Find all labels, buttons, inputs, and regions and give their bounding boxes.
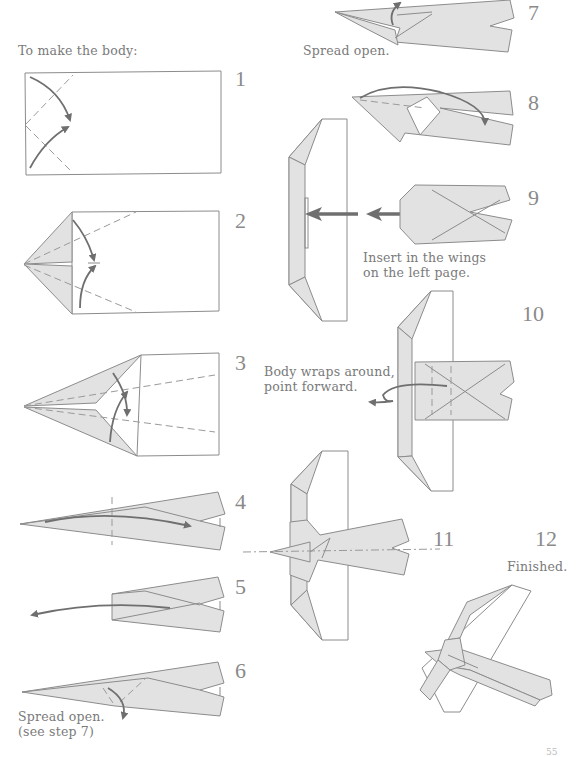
step-number-2: 2 <box>235 210 246 232</box>
step-10-diagram <box>370 291 514 491</box>
page-number: 55 <box>546 747 557 757</box>
step-number-6: 6 <box>235 660 246 682</box>
step-6-caption-line1: Spread open. <box>18 709 105 724</box>
section-heading: To make the body: <box>18 43 138 58</box>
step-5-diagram <box>32 577 224 632</box>
step-number-11: 11 <box>433 528 454 550</box>
step-number-9: 9 <box>528 187 539 209</box>
step-4-diagram <box>20 492 225 550</box>
step-9-caption-line1: Insert in the wings <box>363 250 486 265</box>
step-8-diagram <box>352 87 513 145</box>
step-12-diagram <box>420 585 552 712</box>
step-number-8: 8 <box>528 92 539 114</box>
step-6-caption-line2: (see step 7) <box>18 724 94 739</box>
step-11-diagram <box>243 451 440 640</box>
step-3-diagram <box>24 353 219 456</box>
step-1-diagram <box>25 71 221 175</box>
step-12-caption: Finished. <box>507 559 567 574</box>
step-number-10: 10 <box>522 303 544 325</box>
step-number-3: 3 <box>235 352 246 374</box>
step-9-caption-line2: on the left page. <box>363 265 470 280</box>
step-number-7: 7 <box>528 2 539 24</box>
step-number-5: 5 <box>235 576 246 598</box>
step-9-diagram <box>289 119 512 321</box>
step-number-4: 4 <box>235 491 246 513</box>
step-10-caption-line2: point forward. <box>264 379 358 394</box>
step-10-caption-line1: Body wraps around, <box>264 364 395 379</box>
step-number-12: 12 <box>535 528 557 550</box>
step-7-caption: Spread open. <box>303 43 390 58</box>
step-number-1: 1 <box>235 68 246 90</box>
step-2-diagram <box>24 211 219 314</box>
